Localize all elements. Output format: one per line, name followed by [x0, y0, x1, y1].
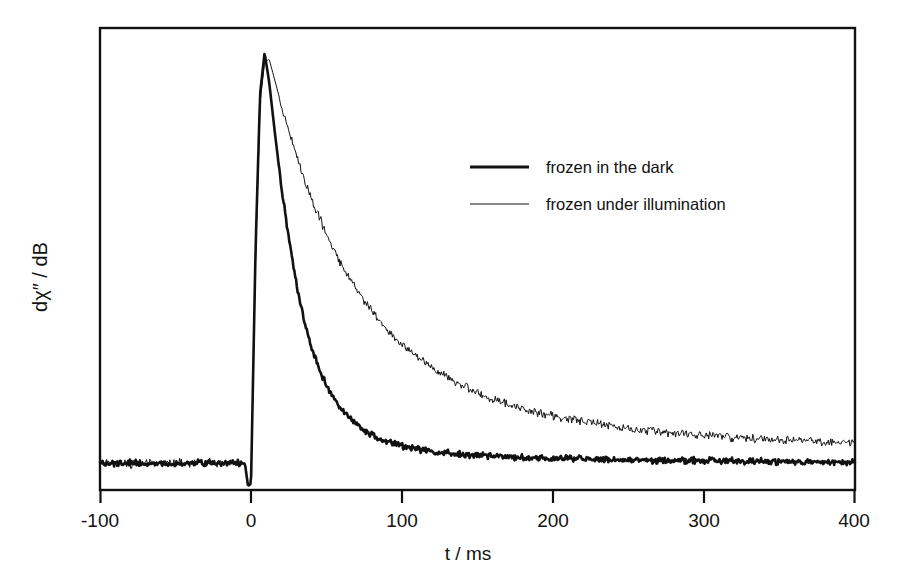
series-line-frozen-in-the-dark: [100, 54, 855, 485]
x-tick-label-0: 0: [246, 510, 257, 531]
plot-frame: [100, 28, 855, 490]
y-axis-title: dχ″ / dB: [29, 242, 51, 312]
x-axis-ticks: [101, 490, 855, 503]
x-tick-label-300: 300: [688, 510, 720, 531]
x-tick-label--100: -100: [81, 510, 119, 531]
x-tick-label-200: 200: [537, 510, 569, 531]
figure-canvas: -100 0 100 200 300 400 t / ms dχ″ / dB f…: [0, 0, 907, 583]
legend-label-frozen-in-the-dark: frozen in the dark: [546, 158, 674, 176]
chart-plot: -100 0 100 200 300 400 t / ms dχ″ / dB f…: [0, 0, 907, 583]
x-tick-label-400: 400: [838, 510, 870, 531]
legend-label-frozen-under-illumination: frozen under illumination: [546, 195, 726, 213]
chart-legend: frozen in the dark frozen under illumina…: [470, 158, 726, 213]
x-tick-label-100: 100: [386, 510, 418, 531]
x-axis-title: t / ms: [445, 543, 491, 564]
series-line-frozen-under-illumination: [100, 59, 855, 484]
